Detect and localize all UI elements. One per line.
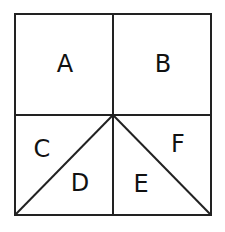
region-label-b: B [155, 50, 171, 78]
region-diagram: A B C D E F [0, 0, 225, 232]
region-label-c: C [34, 135, 51, 163]
region-label-a: A [57, 50, 74, 78]
region-label-f: F [171, 130, 185, 158]
region-label-d: D [71, 169, 89, 197]
diagonal-right [113, 115, 211, 215]
diagonal-left [15, 115, 113, 215]
region-label-e: E [133, 170, 148, 198]
